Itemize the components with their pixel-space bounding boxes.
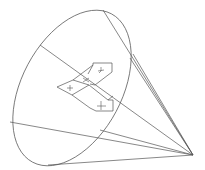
diagram-canvas [0, 0, 205, 170]
x-axis-arrow [57, 80, 90, 108]
coordinate-frame [57, 63, 113, 111]
y-axis-marker-icon [98, 67, 104, 73]
z-axis-marker-icon [97, 101, 106, 110]
cone-diagram [0, 0, 205, 170]
x-axis-marker-icon [67, 85, 73, 91]
cone-base-ellipse [0, 0, 156, 170]
cone-generator-lines [10, 10, 193, 165]
